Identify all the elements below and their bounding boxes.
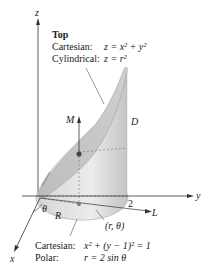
leader-top	[86, 68, 104, 104]
top-cylindrical-eq: z = r²	[104, 53, 127, 64]
label-R: R	[55, 210, 61, 221]
label-M: M	[66, 114, 74, 125]
label-theta: θ	[42, 203, 47, 214]
top-cylindrical-label: Cylindrical:	[52, 53, 100, 64]
label-L: L	[152, 207, 158, 218]
bottom-polar-label: Polar:	[35, 252, 59, 263]
y-axis-label: y	[196, 190, 200, 201]
top-cartesian-label: Cartesian:	[52, 41, 93, 52]
top-cartesian-eq: z = x² + y²	[104, 41, 146, 52]
z-axis-label: z	[35, 7, 39, 18]
leader-bottom	[70, 219, 77, 236]
bottom-cartesian-label: Cartesian:	[35, 240, 76, 251]
bottom-cartesian-eq: x² + (y − 1)² = 1	[84, 240, 151, 251]
label-point: (r, θ)	[105, 220, 124, 231]
x-axis-label: x	[10, 253, 14, 264]
label-D: D	[131, 116, 138, 127]
top-caption-title: Top	[52, 29, 68, 40]
label-two: 2	[128, 198, 133, 209]
z-axis	[36, 18, 40, 196]
bottom-polar-eq: r = 2 sin θ	[84, 252, 126, 263]
